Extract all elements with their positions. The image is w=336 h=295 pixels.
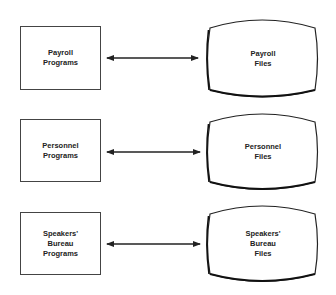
payroll-programs-label: Payroll Programs [20,26,101,90]
speakers-bureau-programs-label: Speakers' Bureau Programs [20,212,101,275]
payroll-files-label: Payroll Files [208,26,318,92]
personnel-programs-label: Personnel Programs [20,119,101,182]
speakers-bureau-files-label: Speakers' Bureau Files [208,212,318,276]
personnel-files-label: Personnel Files [208,120,318,184]
